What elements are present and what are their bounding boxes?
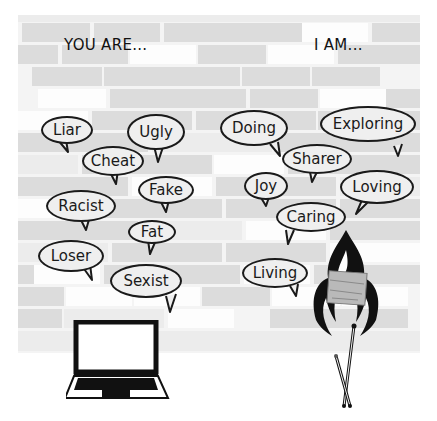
speech-bubble-racist: Racist: [46, 190, 116, 222]
speech-bubble-cheat: Cheat: [82, 146, 144, 176]
speech-bubble-exploring: Exploring: [320, 106, 416, 142]
speech-bubble-loser: Loser: [38, 240, 104, 272]
speech-bubble-sexist: Sexist: [110, 264, 182, 298]
speech-bubble-liar: Liar: [41, 116, 93, 144]
speech-bubble-fake: Fake: [138, 176, 194, 204]
speech-bubble-ugly: Ugly: [127, 114, 185, 150]
speech-bubble-fat: Fat: [128, 220, 176, 244]
speech-bubble-living: Living: [242, 258, 308, 288]
speech-bubble-doing: Doing: [220, 110, 288, 146]
laptop-icon: [66, 320, 186, 400]
burning-paper-with-matches-icon: [306, 228, 386, 408]
speech-bubble-sharer: Sharer: [282, 144, 352, 174]
speech-bubble-loving: Loving: [340, 170, 414, 204]
speech-bubble-joy: Joy: [244, 172, 288, 200]
